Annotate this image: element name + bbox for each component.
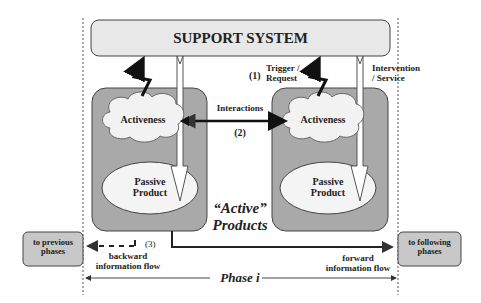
- forward-flow-label: forward information flow: [318, 254, 398, 274]
- support-system-label: SUPPORT SYSTEM: [91, 30, 390, 47]
- interactions-label: Interactions: [205, 104, 275, 114]
- left-passive-line2: Product: [110, 187, 190, 198]
- active-products-line1: “Active”: [200, 200, 280, 217]
- active-products-line2: Products: [200, 217, 280, 234]
- previous-phases-label: to previous phases: [23, 238, 83, 257]
- previous-line2: phases: [23, 247, 83, 256]
- active-products-label: “Active” Products: [200, 200, 280, 233]
- right-passive-label: Passive Product: [288, 176, 368, 198]
- right-passive-line1: Passive: [288, 176, 368, 187]
- left-activeness-label: Activeness: [105, 114, 181, 125]
- intervention-label: Intervention / Service: [372, 64, 420, 84]
- phase-label: Phase i: [205, 271, 275, 285]
- left-passive-label: Passive Product: [110, 176, 190, 198]
- backward-line2: information flow: [88, 262, 168, 272]
- right-activeness-label: Activeness: [285, 114, 361, 125]
- forward-line2: information flow: [318, 264, 398, 274]
- trigger-line2: Request: [266, 74, 299, 84]
- interactions-number: (2): [205, 127, 275, 138]
- trigger-number: (1): [249, 70, 261, 81]
- following-phases-label: to following phases: [398, 238, 461, 257]
- backward-flow-label: backward information flow: [88, 252, 168, 272]
- intervention-line2: / Service: [372, 74, 420, 84]
- right-passive-line2: Product: [288, 187, 368, 198]
- following-line2: phases: [398, 247, 461, 256]
- backward-number: (3): [145, 240, 156, 250]
- left-passive-line1: Passive: [110, 176, 190, 187]
- trigger-label: Trigger / Request: [266, 64, 299, 84]
- forward-flow-arrow: [172, 231, 392, 247]
